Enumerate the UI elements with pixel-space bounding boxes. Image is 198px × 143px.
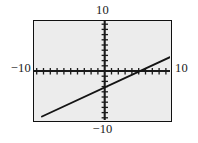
- x-axis-min-label: −10: [0, 62, 31, 75]
- y-axis-max-label: 10: [33, 4, 172, 17]
- x-axis-max-label: 10: [175, 62, 198, 75]
- plot-frame: [33, 20, 172, 122]
- graphing-calculator-plot: 10 −10 −10 10: [0, 0, 198, 143]
- y-axis-min-label: −10: [33, 123, 172, 136]
- x-axis: [34, 68, 170, 75]
- plot-canvas: [34, 21, 170, 120]
